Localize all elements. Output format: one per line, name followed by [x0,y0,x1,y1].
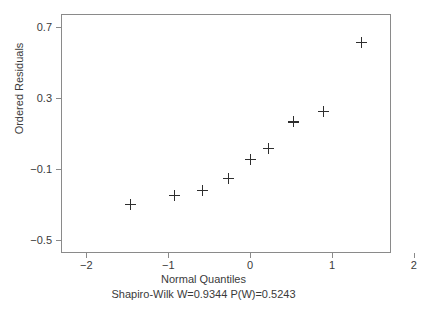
x-tick-label: 0 [230,259,270,272]
y-tick [56,169,61,170]
x-tick-label: −1 [148,259,188,272]
y-axis-title: Ordered Residuals [13,14,26,164]
plot-frame [61,14,391,253]
x-tick-label: 2 [394,259,421,272]
x-tick-label: −2 [66,259,106,272]
y-tick [56,27,61,28]
y-tick-label: −0.1 [6,163,52,175]
x-tick [332,253,333,258]
x-tick [86,253,87,258]
x-axis-title: Normal Quantiles [0,272,407,286]
shapiro-wilk-subtitle: Shapiro-Wilk W=0.9344 P(W)=0.5243 [0,287,407,301]
x-tick [250,253,251,258]
y-tick [56,240,61,241]
y-tick-label: −0.5 [6,234,52,246]
x-tick [414,253,415,258]
y-tick [56,98,61,99]
x-tick [168,253,169,258]
x-tick-label: 1 [312,259,352,272]
